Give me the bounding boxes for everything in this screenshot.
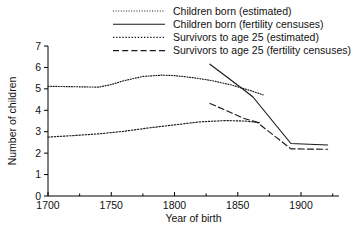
legend-label-2: Children born (fertility censuses) <box>173 18 324 30</box>
chart-axes <box>44 46 339 196</box>
x-tick-label: 1700 <box>36 199 60 211</box>
x-tick-label: 1850 <box>226 199 250 211</box>
y-tick-label: 7 <box>35 40 41 52</box>
chart-legend: Children born (estimated)Children born (… <box>113 5 351 57</box>
y-tick-label: 6 <box>35 61 41 73</box>
series-line-4 <box>210 103 328 149</box>
x-tick-label: 1800 <box>163 199 187 211</box>
series-line-1 <box>48 75 263 95</box>
legend-label-3: Survivors to age 25 (estimated) <box>173 31 319 43</box>
chart-container: Children born (estimated)Children born (… <box>0 0 361 241</box>
x-tick-label: 1900 <box>289 199 313 211</box>
y-tick-label: 2 <box>35 147 41 159</box>
series-line-2 <box>210 64 328 145</box>
y-tick-label: 3 <box>35 125 41 137</box>
legend-label-1: Children born (estimated) <box>173 5 291 17</box>
series-line-3 <box>48 121 261 138</box>
chart-series <box>48 64 328 149</box>
line-chart: Children born (estimated)Children born (… <box>0 0 361 241</box>
y-axis-title: Number of children <box>6 76 18 165</box>
x-axis-title: Year of birth <box>165 212 221 224</box>
chart-tick-labels: 0123456717001750180018501900 <box>35 40 313 211</box>
y-tick-label: 4 <box>35 104 41 116</box>
y-tick-label: 5 <box>35 82 41 94</box>
x-tick-label: 1750 <box>100 199 124 211</box>
y-tick-label: 1 <box>35 168 41 180</box>
legend-label-4: Survivors to age 25 (fertility censuses) <box>173 44 351 56</box>
